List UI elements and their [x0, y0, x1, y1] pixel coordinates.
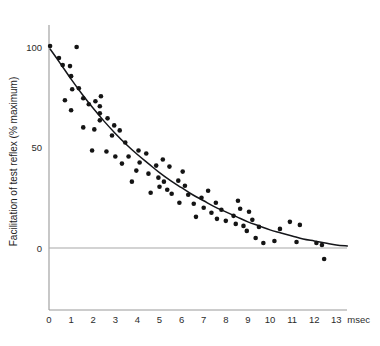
- data-point: [233, 222, 238, 227]
- data-point: [110, 133, 115, 138]
- x-tick-label: 8: [223, 314, 228, 325]
- data-point: [320, 243, 325, 248]
- x-tick-label: 5: [157, 314, 162, 325]
- data-point: [278, 227, 283, 232]
- y-tick-label: 0: [37, 243, 42, 254]
- data-point: [146, 171, 151, 176]
- data-point: [81, 125, 86, 130]
- data-point: [186, 192, 191, 197]
- data-point: [156, 175, 161, 180]
- data-point: [60, 63, 65, 68]
- data-point: [261, 241, 266, 246]
- x-tick-label: 1: [68, 314, 73, 325]
- data-point: [112, 123, 117, 128]
- data-point: [98, 118, 103, 123]
- x-tick-label: 10: [265, 314, 276, 325]
- data-point: [130, 179, 135, 184]
- data-point: [113, 154, 118, 159]
- data-point: [93, 99, 98, 104]
- data-point: [161, 157, 166, 162]
- data-point: [215, 217, 220, 222]
- data-point: [176, 178, 181, 183]
- data-point: [298, 223, 303, 228]
- data-point: [157, 184, 162, 189]
- data-point: [191, 201, 196, 206]
- data-point: [224, 219, 229, 224]
- scatter-plot: 050100 012345678910111213 msec Facilitat…: [0, 0, 380, 346]
- data-point: [219, 208, 224, 213]
- data-point: [272, 239, 277, 244]
- data-point: [183, 183, 188, 188]
- data-point: [214, 200, 219, 205]
- data-point: [209, 211, 214, 216]
- data-point: [250, 218, 255, 223]
- x-tick-label: 11: [287, 314, 297, 325]
- data-point: [169, 191, 174, 196]
- y-tick-label: 100: [26, 42, 42, 53]
- data-point: [120, 161, 125, 166]
- data-point: [105, 116, 110, 121]
- data-point: [137, 160, 142, 165]
- data-point: [322, 257, 327, 262]
- chart-background: [0, 0, 380, 346]
- data-point: [148, 190, 153, 195]
- data-point: [253, 236, 258, 241]
- data-point: [77, 86, 82, 91]
- data-point: [81, 96, 86, 101]
- data-point: [90, 148, 95, 153]
- data-point: [144, 151, 149, 156]
- data-point: [314, 241, 319, 246]
- x-tick-label: 3: [113, 314, 118, 325]
- data-point: [180, 169, 185, 174]
- data-point: [247, 210, 252, 215]
- data-point: [69, 74, 74, 79]
- data-point: [98, 104, 103, 109]
- data-point: [99, 94, 104, 99]
- data-point: [117, 128, 122, 133]
- x-tick-label: 4: [135, 314, 140, 325]
- data-point: [162, 179, 167, 184]
- data-point: [123, 140, 128, 145]
- x-tick-label: 7: [201, 314, 206, 325]
- data-point: [134, 168, 139, 173]
- x-tick-label: 6: [179, 314, 184, 325]
- data-point: [104, 149, 109, 154]
- x-tick-label: 9: [245, 314, 250, 325]
- data-point: [167, 164, 172, 169]
- data-point: [199, 195, 204, 200]
- data-point: [231, 214, 236, 219]
- data-point: [57, 56, 62, 61]
- x-tick-label: 2: [91, 314, 96, 325]
- data-point: [69, 108, 74, 113]
- y-tick-label: 50: [31, 142, 42, 153]
- data-point: [126, 154, 131, 159]
- data-point: [244, 229, 249, 234]
- data-point: [154, 163, 159, 168]
- x-tick-label: 13: [331, 314, 342, 325]
- x-axis-unit-label: msec: [347, 314, 370, 325]
- data-point: [194, 215, 199, 220]
- data-point: [236, 198, 241, 203]
- data-point: [165, 187, 170, 192]
- x-tick-label: 0: [46, 314, 51, 325]
- data-point: [257, 225, 262, 230]
- data-point: [201, 206, 206, 211]
- data-point: [70, 87, 75, 92]
- x-tick-label: 12: [309, 314, 320, 325]
- data-point: [92, 127, 97, 132]
- y-axis-title: Facilitation of test reflex (% maximum): [8, 77, 19, 247]
- data-point: [238, 207, 243, 212]
- data-point: [177, 200, 182, 205]
- data-point: [68, 64, 73, 69]
- data-point: [136, 148, 141, 153]
- data-point: [86, 102, 91, 107]
- data-point: [98, 111, 103, 116]
- data-point: [241, 224, 246, 229]
- chart-figure: 050100 012345678910111213 msec Facilitat…: [0, 0, 380, 346]
- data-point: [288, 220, 293, 225]
- data-point: [63, 98, 68, 103]
- data-point: [48, 44, 53, 49]
- data-point: [74, 45, 79, 50]
- data-point: [294, 240, 299, 245]
- data-point: [206, 188, 211, 193]
